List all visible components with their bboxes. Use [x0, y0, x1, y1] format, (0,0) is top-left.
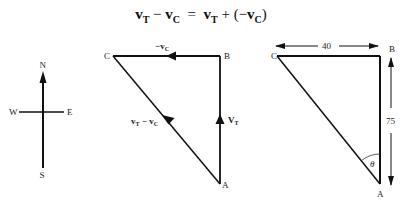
width-label: 40 [322, 41, 332, 51]
label-vt-minus-vc: vT − vC [131, 116, 158, 127]
arrow-diagonal-icon [162, 115, 175, 125]
dimension-arrow-left-icon [275, 43, 285, 49]
compass-east: E [67, 107, 73, 117]
angle-theta: θ [370, 159, 375, 169]
dimension-triangle: θ 40 75 C B A [271, 41, 396, 199]
compass-west: W [9, 107, 18, 117]
label-vt: VT [228, 115, 239, 126]
compass-icon: N S W E [9, 60, 73, 180]
height-label: 75 [386, 116, 396, 126]
vertex-c: C [271, 51, 277, 61]
vertex-b: B [224, 51, 230, 61]
arrow-left-icon [166, 52, 176, 61]
vertex-b: B [389, 44, 395, 54]
vertex-a: A [377, 189, 384, 199]
label-neg-vc: −vC [155, 41, 169, 52]
arrow-up-icon [216, 114, 225, 124]
compass-south: S [40, 170, 45, 180]
dimension-arrow-up-icon [388, 57, 394, 67]
vector-triangle: C B A −vC VT vT − vC [104, 41, 239, 190]
diagram-canvas: N S W E C B A −vC VT vT − vC θ 40 [0, 0, 402, 211]
vertex-c: C [104, 51, 110, 61]
vertex-a: A [222, 180, 229, 190]
compass-north: N [40, 60, 47, 70]
dimension-arrow-right-icon [369, 43, 379, 49]
dimension-arrow-down-icon [388, 176, 394, 186]
